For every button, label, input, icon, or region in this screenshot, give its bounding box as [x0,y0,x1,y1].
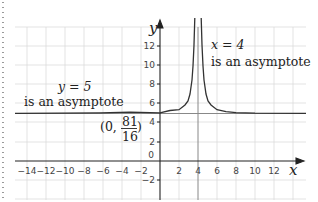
svg-text:−2: −2 [142,175,155,185]
svg-text:x = 4: x = 4 [211,37,244,52]
svg-text:16: 16 [122,129,138,144]
svg-text:2: 2 [176,166,182,176]
y-axis-label: y [148,19,158,37]
svg-text:6: 6 [214,166,220,176]
svg-text:12: 12 [144,41,155,51]
svg-text:(0,: (0, [100,119,117,134]
vertical-asymptote-annotation: x = 4 is an asymptote [211,37,311,69]
svg-text:−10: −10 [56,166,75,176]
svg-text:is an asymptote: is an asymptote [24,94,124,109]
svg-text:): ) [137,119,142,134]
svg-text:−6: −6 [96,166,110,176]
origin-label: 0 [148,150,154,160]
svg-text:10: 10 [249,166,261,176]
svg-text:y = 5: y = 5 [57,79,91,94]
horizontal-asymptote-annotation: y = 5 is an asymptote [24,79,124,109]
svg-text:12: 12 [268,166,279,176]
y-axis-arrow-icon [157,20,163,28]
svg-text:4: 4 [149,117,155,127]
x-axis-label: x [289,161,298,179]
svg-text:−8: −8 [77,166,91,176]
svg-text:8: 8 [233,166,239,176]
svg-text:6: 6 [149,98,155,108]
svg-text:4: 4 [195,166,201,176]
svg-text:10: 10 [144,60,156,70]
svg-text:−14: −14 [18,166,37,176]
svg-text:2: 2 [149,137,155,147]
svg-text:is an asymptote: is an asymptote [211,54,311,69]
svg-text:8: 8 [149,79,155,89]
svg-text:−4: −4 [115,166,129,176]
svg-text:−12: −12 [37,166,56,176]
graph: −14 −12 −10 −8 −6 −4 −2 2 4 6 8 10 12 12… [0,0,318,202]
point-label: (0, 81 16 ) [100,114,142,144]
svg-text:81: 81 [122,114,138,129]
